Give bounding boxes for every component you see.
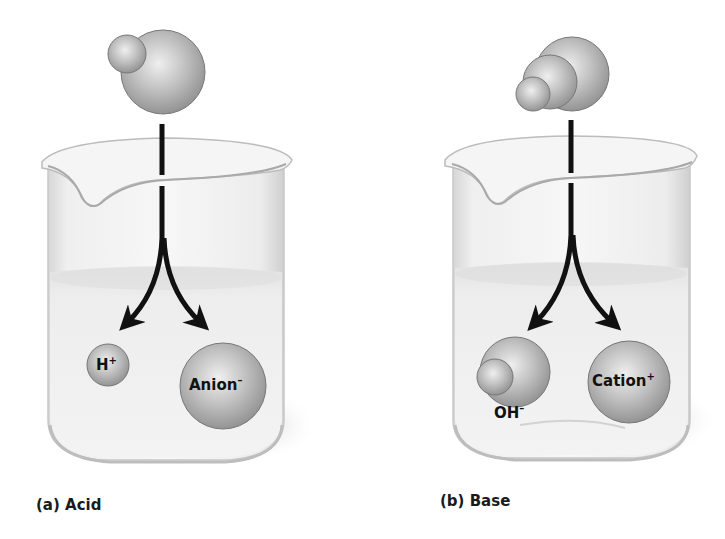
acid-panel (42, 30, 320, 463)
h-plus-label: H+ (96, 355, 117, 374)
base-molecule-icon (516, 37, 609, 111)
acid-base-diagram (0, 0, 725, 539)
acid-caption: (a) Acid (36, 496, 101, 514)
acid-molecule-icon (108, 30, 205, 114)
hydroxide-label: OH– (494, 403, 524, 422)
cation-label: Cation+ (592, 371, 655, 390)
anion-label: Anion– (189, 375, 242, 394)
base-panel (445, 37, 720, 460)
base-caption: (b) Base (440, 492, 510, 510)
